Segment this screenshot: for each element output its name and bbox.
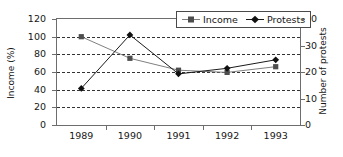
x-axis-tick-mark (251, 126, 252, 130)
square-marker-icon (182, 15, 200, 24)
x-axis-tick-mark (203, 126, 204, 130)
chart-legend: Income Protests (176, 11, 311, 28)
y-axis-right-tick-mark (301, 46, 305, 47)
data-point-protests (272, 56, 279, 63)
x-axis-tick-label: 1993 (254, 130, 298, 141)
y-axis-left-tick-mark (52, 125, 56, 126)
x-axis-tick-label: 1992 (205, 130, 249, 141)
data-point-income (273, 64, 278, 69)
x-axis-tick-mark (154, 126, 155, 130)
data-point-income (127, 56, 132, 61)
x-axis-tick-mark (106, 126, 107, 130)
chart-container: Income (%) Number of protests 0204060801… (0, 0, 343, 157)
legend-item-protests: Protests (246, 14, 305, 25)
series-line-income (81, 37, 275, 73)
y-axis-left-tick-mark (52, 54, 56, 55)
x-axis-tick-label: 1989 (59, 130, 103, 141)
series-line-protests (81, 35, 275, 89)
series-layer (57, 19, 300, 125)
y-axis-left-tick-mark (52, 19, 56, 20)
legend-label-income: Income (203, 14, 238, 25)
y-axis-right-tick-mark (301, 99, 305, 100)
y-axis-right-tick-mark (301, 125, 305, 126)
legend-item-income: Income (182, 14, 238, 25)
data-point-income (79, 34, 84, 39)
y-axis-left-tick-mark (52, 72, 56, 73)
x-axis-tick-label: 1990 (108, 130, 152, 141)
y-axis-right-tick-mark (301, 19, 305, 20)
x-axis-tick-label: 1991 (157, 130, 201, 141)
y-axis-left-tick-mark (52, 37, 56, 38)
legend-label-protests: Protests (267, 14, 305, 25)
y-axis-left-tick-mark (52, 107, 56, 108)
diamond-marker-icon (246, 15, 264, 24)
plot-area (56, 18, 301, 126)
y-axis-left-tick-mark (52, 90, 56, 91)
y-axis-right-tick-mark (301, 72, 305, 73)
